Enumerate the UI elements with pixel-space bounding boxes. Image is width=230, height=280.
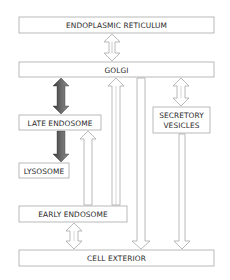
membrane-traffic-diagram: ENDOPLASMIC RETICULUM GOLGI LATE ENDOSOM… <box>0 0 230 280</box>
arrow-early-to-late-endosome <box>80 131 96 205</box>
node-golgi: GOLGI <box>19 62 214 77</box>
node-label: ENDOPLASMIC RETICULUM <box>66 21 167 30</box>
node-label-line1: SECRETORY <box>159 111 204 120</box>
node-endoplasmic-reticulum: ENDOPLASMIC RETICULUM <box>19 17 214 33</box>
arrow-early-endosome-to-golgi <box>108 78 124 205</box>
arrow-golgi-secretory-vesicles <box>173 78 189 106</box>
node-cell-exterior: CELL EXTERIOR <box>19 250 214 266</box>
node-lysosome: LYSOSOME <box>19 163 69 178</box>
node-late-endosome: LATE ENDOSOME <box>19 115 101 130</box>
arrow-secretory-vesicles-to-cell-exterior <box>174 134 190 249</box>
node-secretory-vesicles: SECRETORY VESICLES <box>153 107 210 133</box>
node-label-line2: VESICLES <box>163 121 199 130</box>
arrow-late-endosome-lysosome <box>53 131 69 162</box>
arrow-golgi-to-cell-exterior <box>132 78 150 249</box>
node-label: LATE ENDOSOME <box>28 119 93 128</box>
node-label: LYSOSOME <box>24 167 65 176</box>
arrow-early-endosome-cell-exterior <box>66 223 82 249</box>
node-label: EARLY ENDOSOME <box>38 210 108 219</box>
node-early-endosome: EARLY ENDOSOME <box>19 206 127 222</box>
node-label: CELL EXTERIOR <box>87 254 146 263</box>
node-label: GOLGI <box>104 66 128 75</box>
arrow-golgi-late-endosome <box>53 78 69 114</box>
arrow-er-golgi <box>104 34 120 61</box>
